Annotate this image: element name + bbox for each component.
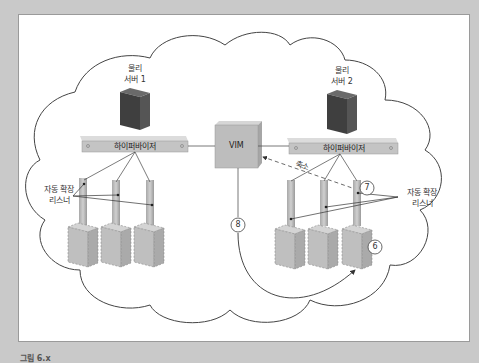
- server-2-label-line1: 물리: [325, 65, 359, 76]
- server-1-label: 물리 서버 1: [118, 63, 152, 85]
- right-listener-line1: 자동 확장: [397, 187, 447, 198]
- server-2-label-line2: 서버 2: [325, 76, 359, 87]
- right-listener-line2: 리스너: [397, 198, 447, 209]
- physical-server-2-icon: [327, 90, 357, 134]
- hypervisor-2-label: 하이퍼바이저: [289, 142, 398, 155]
- hypervisor-1-label: 하이퍼바이저: [82, 140, 188, 153]
- server-2-label: 물리 서버 2: [325, 65, 359, 87]
- vim-label: VIM: [229, 141, 244, 150]
- right-listener-label: 자동 확장 리스너: [397, 187, 447, 209]
- left-listener-label: 자동 확장 리스너: [34, 184, 84, 206]
- right-vm-placeholders: [275, 225, 372, 269]
- server-1-label-line2: 서버 1: [118, 74, 152, 85]
- diagram-canvas: [0, 0, 479, 363]
- figure-caption: 그림 6.x: [20, 352, 51, 363]
- left-listener-line1: 자동 확장: [34, 184, 84, 195]
- step-8-label: 8: [233, 219, 243, 230]
- physical-server-1-icon: [120, 88, 150, 130]
- server-1-label-line1: 물리: [118, 63, 152, 74]
- left-listener-line2: 리스너: [34, 195, 84, 206]
- step-6-label: 6: [370, 241, 380, 252]
- left-vm-placeholders: [68, 223, 164, 267]
- step-7-label: 7: [362, 182, 372, 193]
